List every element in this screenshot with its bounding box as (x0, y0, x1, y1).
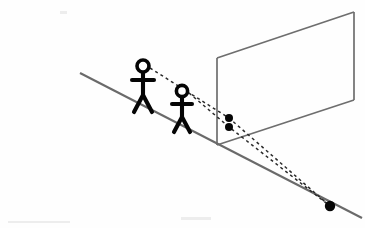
convergence-point (325, 201, 335, 211)
paper-speck (181, 217, 211, 220)
paper-speck (8, 221, 70, 223)
observer-front-head (176, 85, 187, 96)
picture-plane-top-edge (217, 12, 354, 58)
sight-line-front-observer (189, 93, 330, 206)
plane-projected-points (225, 114, 233, 131)
perspective-diagram (0, 0, 365, 228)
picture-plane-bottom-edge (217, 100, 354, 145)
observer-rear-head (137, 60, 149, 72)
paper-speck (60, 11, 67, 14)
projected-point-upper (225, 114, 233, 122)
picture-plane (217, 12, 354, 145)
observer-rear-legs (134, 95, 152, 112)
projected-point-lower (225, 123, 233, 131)
scene-canvas (0, 0, 365, 228)
